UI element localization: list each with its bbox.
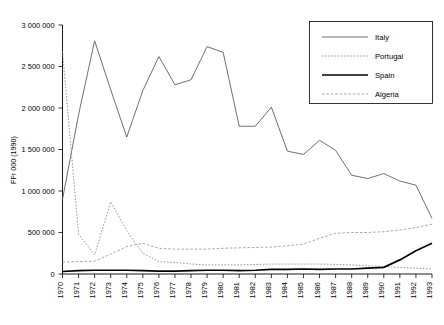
x-tick-label: 1991 xyxy=(393,282,402,298)
x-tick-label: 1983 xyxy=(264,282,273,298)
x-tick-label: 1990 xyxy=(377,282,386,298)
x-tick-label: 1980 xyxy=(216,282,225,298)
x-tick-label: 1993 xyxy=(425,282,434,298)
y-tick-label: 1 500 000 xyxy=(22,145,55,154)
y-tick-label: 500 000 xyxy=(28,228,55,237)
y-axis-title: FFr 000 (1990) xyxy=(9,136,18,184)
x-tick-label: 1979 xyxy=(200,282,209,298)
x-tick-label: 1992 xyxy=(409,282,418,298)
y-tick-label: 0 xyxy=(50,270,54,279)
x-tick-label: 1972 xyxy=(88,282,97,298)
x-tick-label: 1975 xyxy=(136,282,145,298)
x-tick-label: 1970 xyxy=(56,282,65,298)
legend-border xyxy=(310,22,433,104)
y-tick-label: 2 500 000 xyxy=(22,62,55,71)
x-tick-label: 1987 xyxy=(329,282,338,298)
x-tick-label: 1977 xyxy=(168,282,177,298)
y-axis-ticks: 0500 0001 000 0001 500 0002 000 0002 500… xyxy=(22,21,63,279)
x-tick-label: 1971 xyxy=(72,282,81,298)
legend-label-portugal: Portugal xyxy=(375,52,404,61)
y-tick-label: 2 000 000 xyxy=(22,104,55,113)
x-tick-label: 1981 xyxy=(232,282,241,298)
chart-container: FFr 000 (1990) 0500 0001 000 0001 500 00… xyxy=(0,0,444,325)
y-tick-label: 3 000 000 xyxy=(22,21,55,30)
x-tick-label: 1984 xyxy=(280,282,289,298)
x-tick-label: 1976 xyxy=(152,282,161,298)
x-tick-label: 1974 xyxy=(120,282,129,298)
legend-label-italy: Italy xyxy=(375,33,389,42)
x-tick-label: 1978 xyxy=(184,282,193,298)
series-line-algeria xyxy=(63,224,433,262)
legend-label-algeria: Algeria xyxy=(375,90,399,99)
x-tick-label: 1973 xyxy=(104,282,113,298)
legend-label-spain: Spain xyxy=(375,71,394,80)
chart-legend: ItalyPortugalSpainAlgeria xyxy=(310,22,433,104)
y-tick-label: 1 000 000 xyxy=(22,187,55,196)
line-chart: FFr 000 (1990) 0500 0001 000 0001 500 00… xyxy=(0,0,444,325)
series-line-spain xyxy=(63,243,433,271)
x-tick-label: 1988 xyxy=(345,282,354,298)
x-tick-label: 1986 xyxy=(313,282,322,298)
x-tick-label: 1985 xyxy=(296,282,305,298)
x-tick-label: 1982 xyxy=(248,282,257,298)
x-tick-label: 1989 xyxy=(361,282,370,298)
y-axis-title-text: FFr 000 (1990) xyxy=(9,136,18,184)
x-axis-ticks: 1970197119721973197419751976197719781979… xyxy=(56,274,435,298)
